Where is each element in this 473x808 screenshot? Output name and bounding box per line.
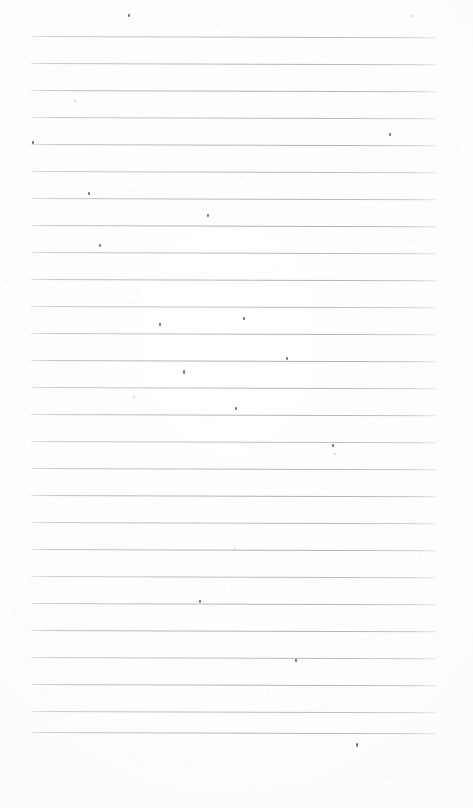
handwriting-content: [0, 0, 473, 808]
scanned-page: [0, 0, 473, 808]
